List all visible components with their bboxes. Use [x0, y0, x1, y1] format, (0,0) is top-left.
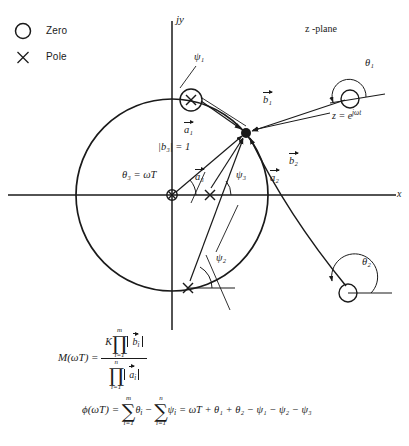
vector-b2-text: b₂ — [289, 155, 298, 166]
sum1-term-sub: i — [140, 408, 142, 417]
vector-a1 — [201, 101, 241, 129]
vector-b1-label: b₁ — [263, 95, 272, 106]
psi3-label: ψ₃ — [236, 170, 246, 181]
magnitude-numerator: K m ∏ i=1 bi — [101, 327, 146, 358]
theta2-label: θ₂ — [362, 257, 371, 268]
magnitude-gain: K — [105, 336, 112, 347]
sum1-glyph: ∑ — [122, 402, 136, 420]
psi1-label: ψ₁ — [194, 52, 204, 63]
psi2-label: ψ₂ — [216, 253, 226, 264]
magnitude-fraction: K m ∏ i=1 bi n ∏ i=1 ai — [101, 327, 146, 391]
real-axis-label: x — [397, 189, 401, 199]
den-term-sub: i — [134, 373, 136, 381]
psi3-ray — [216, 205, 238, 252]
imaginary-axis-label: jy — [176, 14, 184, 25]
num-product-glyph: ∏ — [112, 334, 127, 352]
vector-b2-label: b₂ — [289, 156, 298, 167]
sum1-lower-limit: i=1 — [122, 420, 136, 427]
magnitude-lhs: M(ωT) = — [58, 351, 99, 363]
plane-label: z -plane — [305, 24, 337, 34]
legend-pole-icon — [18, 52, 29, 63]
vector-a2-text: a₂ — [270, 172, 279, 183]
phase-rhs: = ωT + θ₁ + θ₂ − ψ₁ − ψ₂ − ψ₃ — [179, 404, 312, 415]
theta3-label: θ₃ = ωT — [122, 170, 156, 181]
den-term: a — [129, 369, 134, 380]
den-product-glyph: ∏ — [109, 366, 124, 384]
sum2-term-sub: i — [174, 408, 176, 417]
vector-a2-label: a₂ — [270, 173, 279, 184]
magnitude-numerator-product: m ∏ i=1 — [112, 327, 127, 358]
vector-a3-text: a₃ — [195, 171, 204, 182]
theta1-label: θ₁ — [365, 58, 374, 69]
num-term-sub: i — [138, 341, 140, 349]
legend-label-pole: Pole — [46, 52, 67, 62]
vector-b2 — [250, 138, 346, 286]
evaluation-point — [241, 128, 251, 138]
num-term: b — [133, 336, 138, 347]
sum2-lower-limit: i=1 — [154, 420, 168, 427]
b3-magnitude-label: |b₃| = 1 — [158, 142, 190, 153]
phase-sum-1: m ∑ i=1 — [122, 395, 136, 426]
vector-b1-text: b₁ — [263, 94, 272, 105]
evaluation-point-exponent: jωt — [352, 109, 361, 117]
evaluation-point-leader — [253, 113, 330, 130]
magnitude-equation: M(ωT) = K m ∏ i=1 bi n ∏ i=1 ai — [58, 327, 147, 391]
phase-minus: − — [145, 403, 151, 415]
evaluation-point-base: z = e — [332, 110, 352, 121]
vector-a3-label: a₃ — [195, 172, 204, 183]
vector-a1-label: a₁ — [184, 125, 193, 136]
magnitude-denominator-product: n ∏ i=1 — [109, 359, 124, 390]
phase-lhs: ϕ(ωT) = — [82, 403, 119, 415]
pole-1-pointer — [202, 98, 246, 126]
phase-sum-2: n ∑ i=1 — [154, 395, 168, 426]
sum2-glyph: ∑ — [154, 402, 168, 420]
legend-zero-icon — [16, 24, 31, 39]
psi1-leader — [180, 66, 196, 88]
evaluation-point-label: z = ejωt — [332, 110, 361, 121]
phase-equation: ϕ(ωT) = m ∑ i=1 θi − n ∑ i=1 ψi = ωT + θ… — [82, 395, 312, 426]
vector-a1-text: a₁ — [184, 124, 193, 135]
legend-label-zero: Zero — [46, 26, 67, 36]
magnitude-denominator: n ∏ i=1 ai — [101, 358, 146, 390]
